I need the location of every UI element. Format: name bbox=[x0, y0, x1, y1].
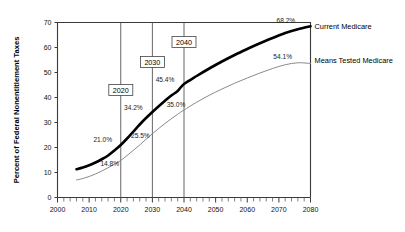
x-tick-label: 2000 bbox=[50, 206, 66, 213]
y-tick-label: 60 bbox=[44, 44, 52, 51]
year-marker-label: 2020 bbox=[113, 86, 129, 95]
y-tick-label: 30 bbox=[44, 119, 52, 126]
point-label: 35.0% bbox=[167, 101, 186, 108]
y-axis-title: Percent of Federal Nonentitlement Taxes bbox=[12, 37, 21, 184]
point-label: 25.5% bbox=[131, 132, 150, 139]
year-marker-label: 2030 bbox=[144, 58, 160, 67]
y-tick-label: 40 bbox=[44, 94, 52, 101]
point-label: 34.2% bbox=[124, 104, 143, 111]
x-axis-ticks: 200020102020203020402050206020702080 bbox=[50, 198, 319, 213]
y-axis-label-group: Percent of Federal Nonentitlement Taxes bbox=[12, 37, 21, 184]
data-series-group bbox=[76, 26, 310, 180]
y-tick-label: 20 bbox=[44, 144, 52, 151]
line-chart: Percent of Federal Nonentitlement Taxes … bbox=[0, 0, 405, 232]
x-tick-label: 2070 bbox=[271, 206, 287, 213]
legend-label-current-medicare: Current Medicare bbox=[315, 22, 372, 31]
point-label: 45.4% bbox=[156, 76, 175, 83]
x-tick-label: 2060 bbox=[239, 206, 255, 213]
legend-label-means-tested-medicare: Means Tested Medicare bbox=[315, 56, 393, 65]
y-tick-label: 50 bbox=[44, 69, 52, 76]
x-tick-label: 2010 bbox=[81, 206, 97, 213]
point-label: 14.8% bbox=[100, 160, 119, 167]
point-label: 21.0% bbox=[93, 136, 112, 143]
chart-figure: Percent of Federal Nonentitlement Taxes … bbox=[0, 0, 405, 232]
point-label: 68.2% bbox=[276, 17, 295, 24]
y-tick-label: 0 bbox=[48, 194, 52, 201]
x-tick-label: 2050 bbox=[208, 206, 224, 213]
y-tick-label: 10 bbox=[44, 169, 52, 176]
y-tick-label: 70 bbox=[44, 19, 52, 26]
year-marker-label: 2040 bbox=[176, 38, 192, 47]
x-tick-label: 2040 bbox=[176, 206, 192, 213]
y-axis-ticks: 010203040506070 bbox=[44, 19, 58, 201]
x-tick-label: 2080 bbox=[303, 206, 319, 213]
legend-group: Current MedicareMeans Tested Medicare bbox=[315, 22, 393, 65]
x-tick-label: 2020 bbox=[113, 206, 129, 213]
point-label: 54.1% bbox=[273, 53, 292, 60]
x-tick-label: 2030 bbox=[145, 206, 161, 213]
